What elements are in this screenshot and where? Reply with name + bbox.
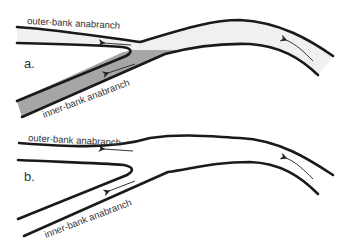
panel-label-a: a. [24,56,35,71]
flow-arrow-outer-b [104,149,133,151]
outer-anabranch-fill-a [17,20,333,75]
panel-label-b: b. [24,169,35,184]
panel-a: a. outer-bank anabranch inner-bank anabr… [17,15,333,120]
panel-b: b. outer-bank anabranch inner-bank anabr… [18,132,333,240]
bifurcation-diagram: a. outer-bank anabranch inner-bank anabr… [0,0,346,250]
